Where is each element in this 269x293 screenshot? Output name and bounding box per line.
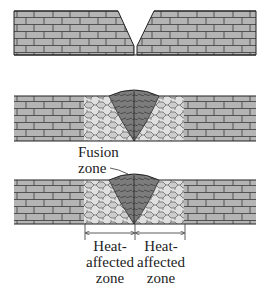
panel-before-welding bbox=[14, 11, 256, 55]
haz-left-line2: affected bbox=[82, 254, 138, 270]
haz-right-line1: Heat- bbox=[133, 238, 189, 254]
panel-annotated bbox=[14, 174, 256, 224]
haz-right-line2: affected bbox=[133, 254, 189, 270]
fusion-zone-label-line1: Fusion bbox=[78, 144, 119, 160]
haz-left-label: Heat- affected zone bbox=[82, 238, 138, 286]
haz-left-line1: Heat- bbox=[82, 238, 138, 254]
right-plate bbox=[137, 11, 256, 55]
haz-left-line3: zone bbox=[82, 270, 138, 286]
panel-after-welding bbox=[14, 90, 256, 141]
fusion-zone-label-line2: zone bbox=[78, 160, 119, 176]
haz-right-label: Heat- affected zone bbox=[133, 238, 189, 286]
fusion-zone-label: Fusion zone bbox=[78, 144, 119, 176]
left-plate bbox=[14, 11, 134, 55]
haz-right-line3: zone bbox=[133, 270, 189, 286]
